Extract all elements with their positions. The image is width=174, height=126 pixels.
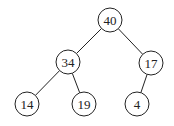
tree-node: 17: [139, 51, 163, 75]
tree-edge: [76, 28, 101, 53]
tree-node: 34: [56, 50, 80, 74]
node-label: 40: [104, 13, 117, 28]
tree-edges: [35, 28, 147, 95]
tree-edge: [118, 29, 142, 55]
tree-node: 40: [98, 8, 122, 32]
tree-node: 19: [72, 92, 96, 116]
tree-node: 4: [125, 92, 149, 116]
node-label: 19: [78, 97, 91, 112]
node-label: 34: [62, 55, 76, 70]
tree-nodes: 40341714194: [15, 8, 163, 116]
tree-node: 14: [15, 92, 39, 116]
tree-edge: [141, 74, 147, 92]
node-label: 14: [21, 97, 35, 112]
tree-edge: [72, 73, 79, 93]
node-label: 4: [134, 97, 141, 112]
binary-tree-diagram: 40341714194: [0, 0, 174, 126]
tree-edge: [35, 71, 59, 96]
node-label: 17: [145, 56, 159, 71]
